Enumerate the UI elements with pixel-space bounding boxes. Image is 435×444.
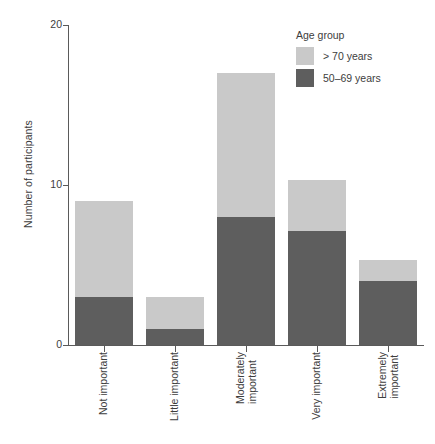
legend-title: Age group bbox=[296, 29, 381, 41]
x-tick-label-text: Not important bbox=[98, 352, 110, 415]
y-tick-mark bbox=[63, 345, 68, 346]
legend-label: 50–69 years bbox=[323, 72, 381, 84]
legend-swatch bbox=[296, 47, 314, 65]
x-tick-label-text: Moderatelyimportant bbox=[235, 352, 258, 404]
bar-segment-50-69 bbox=[75, 297, 133, 345]
x-tick-label: Very important bbox=[288, 352, 346, 444]
x-tick-label-text: Extremelyimportant bbox=[377, 352, 400, 399]
bar-segment-50-69 bbox=[359, 281, 417, 345]
y-tick-label: 0 bbox=[28, 339, 62, 350]
x-tick-label-text: Little important bbox=[169, 352, 181, 421]
x-tick-label: Not important bbox=[75, 352, 133, 444]
y-axis-title: Number of participants bbox=[22, 94, 34, 254]
bar bbox=[146, 297, 204, 345]
x-tick-label-line: Little important bbox=[169, 352, 181, 421]
bar-segment-50-69 bbox=[217, 217, 275, 345]
x-tick-label-line: Moderately bbox=[235, 352, 247, 404]
legend: Age group > 70 years50–69 years bbox=[296, 29, 381, 89]
x-tick-label-text: Very important bbox=[311, 352, 323, 420]
x-tick-label: Little important bbox=[146, 352, 204, 444]
legend-entry: 50–69 years bbox=[296, 67, 381, 89]
x-tick-label: Moderatelyimportant bbox=[217, 352, 275, 444]
bar bbox=[288, 180, 346, 345]
bar-segment-over-70 bbox=[359, 260, 417, 281]
bar-segment-50-69 bbox=[288, 231, 346, 345]
x-tick-label-line: important bbox=[246, 352, 258, 404]
x-tick-label-line: Very important bbox=[311, 352, 323, 420]
bar-segment-over-70 bbox=[75, 201, 133, 297]
bar-segment-over-70 bbox=[217, 73, 275, 217]
x-tick-label-line: Not important bbox=[98, 352, 110, 415]
bar bbox=[359, 260, 417, 345]
bar-segment-50-69 bbox=[146, 329, 204, 345]
legend-entry: > 70 years bbox=[296, 45, 381, 67]
x-tick-label-line: important bbox=[388, 352, 400, 399]
y-tick-label: 20 bbox=[28, 19, 62, 30]
y-tick-label: 10 bbox=[28, 179, 62, 190]
x-tick-label: Extremelyimportant bbox=[359, 352, 417, 444]
bar-segment-over-70 bbox=[288, 180, 346, 231]
legend-entries: > 70 years50–69 years bbox=[296, 45, 381, 89]
legend-swatch bbox=[296, 69, 314, 87]
bar bbox=[75, 201, 133, 345]
stacked-bar-chart: Number of participants 01020 Not importa… bbox=[0, 0, 435, 444]
legend-label: > 70 years bbox=[323, 50, 372, 62]
bar-segment-over-70 bbox=[146, 297, 204, 329]
bar bbox=[217, 73, 275, 345]
